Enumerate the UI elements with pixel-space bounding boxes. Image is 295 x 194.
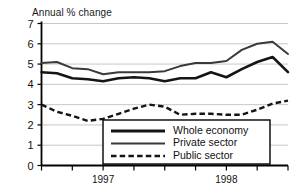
x-axis-ticks: 19971998 [42, 166, 289, 185]
series-line-public-sector [42, 101, 289, 121]
y-tick-label-1: 1 [27, 139, 33, 151]
y-tick-label-4: 4 [27, 78, 33, 90]
x-tick-label-1997: 1997 [92, 174, 115, 185]
legend-label-whole-economy: Whole economy [173, 124, 249, 136]
chart-legend: Whole economyPrivate sectorPublic sector [103, 120, 270, 164]
x-tick-label-1998: 1998 [215, 174, 238, 185]
line-chart-plot: 01234567 19971998 Whole economyPrivate s… [0, 0, 295, 194]
legend-label-private-sector: Private sector [173, 136, 238, 148]
y-tick-label-2: 2 [27, 119, 33, 131]
legend-label-public-sector: Public sector [173, 149, 234, 161]
y-tick-label-3: 3 [27, 99, 33, 111]
y-tick-label-7: 7 [27, 18, 33, 30]
y-tick-label-0: 0 [27, 160, 33, 172]
y-tick-label-5: 5 [27, 58, 33, 70]
series-line-private-sector [42, 42, 289, 74]
y-axis-ticks: 01234567 [27, 18, 41, 172]
y-tick-label-6: 6 [27, 38, 33, 50]
chart-container: Annual % change 01234567 19971998 Whole … [0, 0, 295, 194]
data-series [42, 42, 289, 121]
